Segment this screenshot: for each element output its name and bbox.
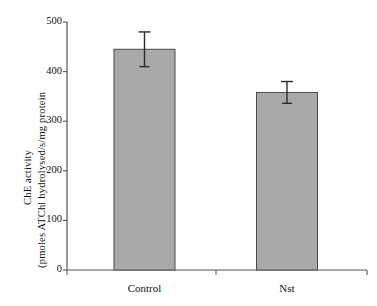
bar: [257, 92, 318, 270]
x-axis-tick-label: Nst: [237, 282, 337, 294]
bar: [114, 49, 175, 270]
chart-figure: ChE activity (pmoles ATChl hydrolysed/s/…: [0, 0, 377, 306]
axes: [63, 22, 367, 275]
x-axis-tick-label: Control: [95, 282, 195, 294]
plot-area: [0, 0, 377, 306]
